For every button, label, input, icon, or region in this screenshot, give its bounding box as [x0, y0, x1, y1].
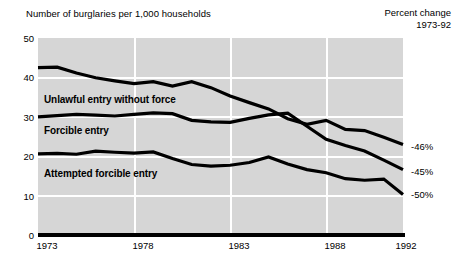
y-tick-50: 50: [4, 33, 34, 44]
y-tick-0: 0: [4, 230, 34, 241]
x-tick-1978: 1978: [132, 240, 153, 251]
series-label-forcible-entry: Forcible entry: [44, 125, 109, 136]
series-label-attempted-forcible-entry: Attempted forcible entry: [44, 168, 157, 179]
percent-change-attempted-forcible-entry: -50%: [411, 189, 433, 200]
y-axis-ticks: 50 40 30 20 10 0: [0, 0, 34, 268]
y-tick-30: 30: [4, 111, 34, 122]
x-tick-1973: 1973: [36, 240, 57, 251]
line-forcible-entry: [38, 113, 403, 170]
series-label-unlawful-entry: Unlawful entry without force: [44, 94, 176, 105]
percent-change-unlawful-entry: -46%: [411, 141, 433, 152]
x-tick-1992: 1992: [395, 240, 416, 251]
x-tick-1983: 1983: [228, 240, 249, 251]
burglary-rate-line-chart: Number of burglaries per 1,000 household…: [0, 0, 461, 268]
y-tick-10: 10: [4, 190, 34, 201]
percent-change-forcible-entry: -45%: [411, 166, 433, 177]
y-tick-40: 40: [4, 72, 34, 83]
x-tick-1988: 1988: [324, 240, 345, 251]
x-axis-ticks: 1973 1978 1983 1988 1992: [0, 240, 461, 256]
y-tick-20: 20: [4, 151, 34, 162]
